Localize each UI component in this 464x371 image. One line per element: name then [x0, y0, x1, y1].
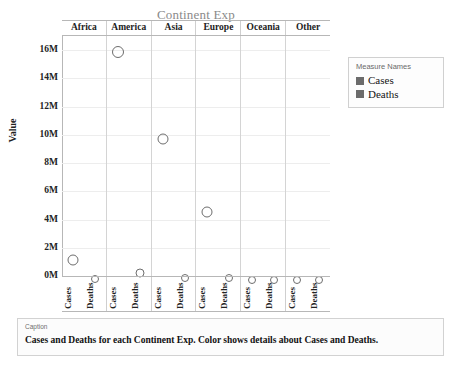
gridline [196, 78, 240, 79]
gridline [241, 163, 285, 164]
legend-label: Deaths [368, 88, 399, 101]
x-tick-other-cases[interactable]: Cases [286, 277, 308, 311]
legend-swatch-icon [356, 77, 364, 85]
x-tick-label: Deaths [220, 283, 229, 310]
panel-columns [62, 36, 330, 276]
x-tick-other-deaths[interactable]: Deaths [308, 277, 330, 311]
y-tick-8M: 8M [18, 158, 58, 168]
gridline [107, 135, 151, 136]
gridline [196, 135, 240, 136]
gridline [286, 163, 330, 164]
x-tick-label: Cases [109, 287, 118, 309]
x-tick-label: Deaths [176, 283, 185, 310]
gridline [152, 220, 196, 221]
gridline [62, 220, 106, 221]
gridline [286, 191, 330, 192]
gridline [62, 248, 106, 249]
panel-other [286, 36, 330, 276]
x-tick-africa-cases[interactable]: Cases [62, 277, 84, 311]
x-tick-label: Deaths [86, 283, 95, 310]
x-panel-europe: CasesDeaths [196, 277, 241, 311]
y-tick-0M: 0M [18, 271, 58, 281]
gridline [152, 191, 196, 192]
legend-item-cases[interactable]: Cases [356, 74, 437, 87]
mark-europe-cases[interactable] [202, 207, 213, 218]
gridline [286, 248, 330, 249]
x-tick-america-cases[interactable]: Cases [107, 277, 129, 311]
x-panel-asia: CasesDeaths [152, 277, 197, 311]
visualization-canvas: Continent Exp AfricaAmericaAsiaEuropeOce… [0, 0, 464, 371]
x-panel-africa: CasesDeaths [62, 277, 107, 311]
gridline [107, 163, 151, 164]
x-tick-europe-cases[interactable]: Cases [196, 277, 218, 311]
legend-item-deaths[interactable]: Deaths [356, 88, 437, 101]
gridline [286, 107, 330, 108]
legend-entries: CasesDeaths [356, 74, 437, 100]
panel-header-asia[interactable]: Asia [152, 21, 197, 35]
gridline [62, 191, 106, 192]
legend-measure-names[interactable]: Measure Names CasesDeaths [348, 57, 444, 108]
x-tick-america-deaths[interactable]: Deaths [129, 277, 151, 311]
panel-america [107, 36, 152, 276]
x-tick-label: Cases [64, 287, 73, 309]
gridline [196, 248, 240, 249]
gridline [196, 191, 240, 192]
gridline [62, 163, 106, 164]
gridline [241, 248, 285, 249]
caption-box: Caption Cases and Deaths for each Contin… [17, 318, 444, 356]
panel-europe [196, 36, 241, 276]
x-panel-oceania: CasesDeaths [241, 277, 286, 311]
gridline [286, 135, 330, 136]
caption-kicker: Caption [25, 323, 436, 330]
gridline [107, 248, 151, 249]
gridline [62, 78, 106, 79]
panel-header-europe[interactable]: Europe [196, 21, 241, 35]
gridline [107, 78, 151, 79]
y-tick-6M: 6M [18, 187, 58, 197]
mark-asia-cases[interactable] [157, 133, 168, 144]
gridline [62, 107, 106, 108]
panel-header-america[interactable]: America [107, 21, 152, 35]
gridline [62, 50, 106, 51]
y-tick-10M: 10M [18, 130, 58, 140]
caption-text: Cases and Deaths for each Continent Exp.… [25, 335, 436, 346]
x-tick-label: Cases [198, 287, 207, 309]
gridline [241, 107, 285, 108]
gridline [241, 50, 285, 51]
gridline [107, 220, 151, 221]
panel-header-band: AfricaAmericaAsiaEuropeOceaniaOther [62, 20, 330, 36]
x-tick-asia-deaths[interactable]: Deaths [174, 277, 196, 311]
mark-america-cases[interactable] [112, 46, 124, 58]
panel-africa [62, 36, 107, 276]
mark-africa-cases[interactable] [67, 255, 78, 266]
gridline [152, 107, 196, 108]
x-tick-label: Deaths [265, 283, 274, 310]
panel-header-other[interactable]: Other [286, 21, 330, 35]
gridline [241, 135, 285, 136]
gridline [286, 220, 330, 221]
x-tick-europe-deaths[interactable]: Deaths [218, 277, 240, 311]
legend-title: Measure Names [356, 63, 437, 71]
x-panel-america: CasesDeaths [107, 277, 152, 311]
panel-header-oceania[interactable]: Oceania [241, 21, 286, 35]
plot-area [62, 36, 330, 276]
panel-header-africa[interactable]: Africa [62, 21, 107, 35]
x-tick-label: Deaths [310, 283, 319, 310]
gridline [286, 78, 330, 79]
x-tick-asia-cases[interactable]: Cases [152, 277, 174, 311]
legend-label: Cases [368, 74, 394, 87]
gridline [241, 78, 285, 79]
x-tick-label: Cases [154, 287, 163, 309]
x-tick-label: Cases [243, 287, 252, 309]
gridline [62, 135, 106, 136]
x-tick-oceania-cases[interactable]: Cases [241, 277, 263, 311]
x-tick-oceania-deaths[interactable]: Deaths [263, 277, 285, 311]
gridline [107, 191, 151, 192]
gridline [152, 50, 196, 51]
x-tick-africa-deaths[interactable]: Deaths [84, 277, 106, 311]
panel-oceania [241, 36, 286, 276]
gridline [107, 107, 151, 108]
gridline [152, 78, 196, 79]
gridline [196, 163, 240, 164]
panel-asia [152, 36, 197, 276]
